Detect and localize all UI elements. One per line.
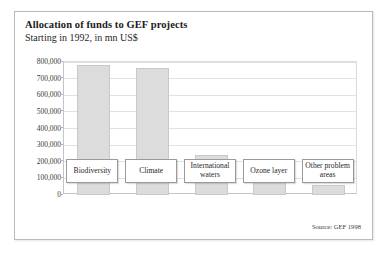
y-axis-tick-label: 800,000 [17,57,61,66]
y-axis-tick-label: 200,000 [17,156,61,165]
y-axis-tick-label: 500,000 [17,106,61,115]
x-axis-category-label: Biodiversity [66,159,118,183]
y-axis-tick-label: 600,000 [17,90,61,99]
y-axis-tick-labels: 0100,000200,000300,000400,000500,000600,… [15,61,61,194]
y-axis-tick-label: 300,000 [17,140,61,149]
chart-subtitle: Starting in 1992, in mn US$ [25,31,355,44]
chart-title: Allocation of funds to GEF projects [25,18,355,31]
y-axis-tick-label: 100,000 [17,173,61,182]
x-axis-category-labels: BiodiversityClimateInternational watersO… [63,159,357,185]
y-axis-tick-label: 400,000 [17,123,61,132]
y-axis-tick-label: 0 [17,190,61,199]
x-axis-category-label: International waters [184,159,236,183]
source-note: Source: GEF 1998 [312,223,361,230]
x-axis-category-label: Other problem areas [302,159,354,183]
bar [312,185,345,195]
x-axis-category-label: Ozone layer [243,159,295,183]
title-block: Allocation of funds to GEF projects Star… [25,18,355,44]
y-axis-tick-label: 700,000 [17,73,61,82]
gridline [64,62,356,63]
figure-frame: Allocation of funds to GEF projects Star… [14,11,373,240]
x-axis-category-label: Climate [125,159,177,183]
